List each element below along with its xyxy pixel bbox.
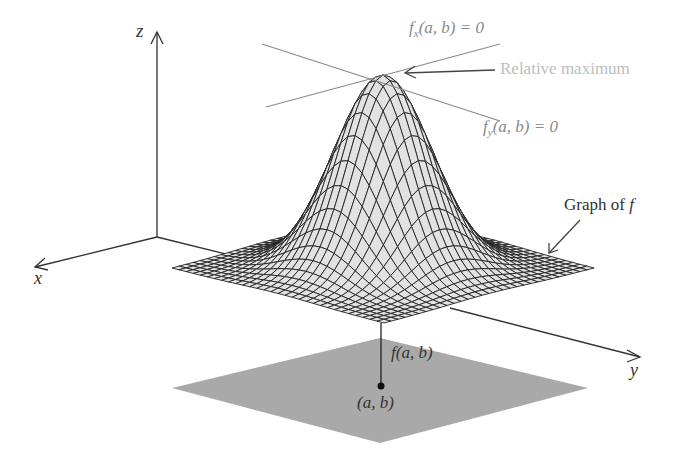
point-ab-label: (a, b) xyxy=(357,393,394,413)
fy-label: fy(a, b) = 0 xyxy=(483,117,558,138)
x-axis xyxy=(35,237,157,267)
fy-args: (a, b) = 0 xyxy=(493,117,558,136)
z-axis-label: z xyxy=(136,20,143,42)
x-axis-label: x xyxy=(34,268,42,289)
relative-maximum-label: Relative maximum xyxy=(500,59,630,79)
y-axis-label: y xyxy=(630,360,638,381)
graph-of-f-text: Graph of xyxy=(564,195,629,214)
graph-of-f-arrow xyxy=(549,220,580,253)
f-ab-label: f(a, b) xyxy=(391,343,433,363)
graph-of-f-label: Graph of f xyxy=(564,195,634,215)
relative-max-arrow xyxy=(405,70,495,73)
fx-label: fx(a, b) = 0 xyxy=(409,18,484,39)
point-ab xyxy=(378,383,385,390)
y-axis xyxy=(450,308,640,357)
fx-args: (a, b) = 0 xyxy=(419,18,484,37)
domain-plane xyxy=(172,338,588,443)
surface-mesh xyxy=(172,75,594,323)
graph-of-f-var: f xyxy=(629,195,634,214)
